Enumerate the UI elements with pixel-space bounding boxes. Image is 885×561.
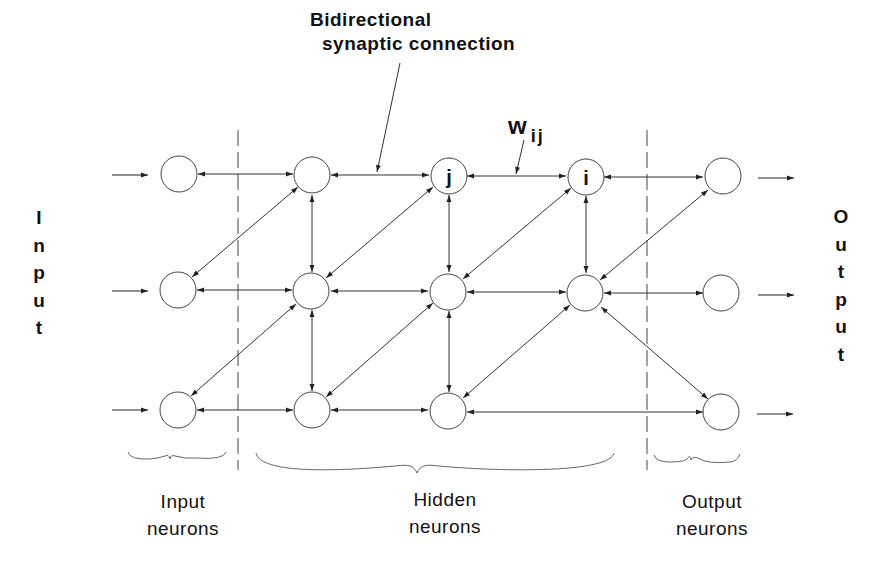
weight-subscript: ij [531, 126, 545, 146]
input-brace [128, 452, 226, 459]
group-label-line1: Input [128, 488, 238, 515]
input-neuron-1 [161, 156, 197, 192]
node-label-i: i [583, 167, 589, 189]
input-neurons-label: Input neurons [128, 488, 238, 542]
output-letter: t [831, 258, 851, 286]
node-label-j: j [445, 166, 452, 188]
input-letter: t [29, 314, 49, 342]
external-input-arrows [112, 175, 148, 410]
input-letter: I [29, 204, 49, 232]
output-letter: u [831, 231, 851, 259]
hidden-neuron-2-3 [430, 393, 466, 429]
synaptic-connection-callout [377, 63, 400, 172]
input-side-label: I n p u t [29, 204, 49, 342]
output-letter: O [831, 203, 851, 231]
output-brace [654, 454, 740, 463]
input-neuron-2 [160, 272, 196, 308]
group-braces [128, 452, 740, 473]
hidden-neuron-1-1 [294, 157, 330, 193]
weight-label: wij [508, 112, 545, 147]
hidden-neuron-1-2 [293, 273, 329, 309]
output-side-label: O u t p u t [831, 203, 851, 368]
output-letter: u [831, 313, 851, 341]
input-letter: p [29, 259, 49, 287]
callout-title-line2: synaptic connection [300, 32, 560, 56]
input-letter: n [29, 232, 49, 260]
group-label-line2: neurons [657, 515, 767, 542]
group-label-line1: Hidden [390, 486, 500, 513]
group-label-line2: neurons [390, 513, 500, 540]
hidden-neuron-2-2 [430, 274, 466, 310]
output-neuron-1 [705, 158, 741, 194]
hidden-neuron-1-3 [294, 392, 330, 428]
callout-title-line1: Bidirectional [300, 8, 560, 32]
external-output-arrows [757, 178, 794, 414]
network-diagram: j i [0, 0, 885, 561]
input-letter: u [29, 287, 49, 315]
hidden-neuron-3-2 [567, 275, 603, 311]
input-neuron-3 [160, 392, 196, 428]
group-label-line1: Output [657, 488, 767, 515]
output-neurons-label: Output neurons [657, 488, 767, 542]
weight-symbol: w [508, 112, 527, 139]
output-neuron-3 [703, 394, 739, 430]
output-letter: p [831, 286, 851, 314]
callout-title: Bidirectional synaptic connection [300, 8, 560, 56]
output-letter: t [831, 341, 851, 369]
hidden-neurons-label: Hidden neurons [390, 486, 500, 540]
group-label-line2: neurons [128, 515, 238, 542]
output-neuron-2 [703, 275, 739, 311]
